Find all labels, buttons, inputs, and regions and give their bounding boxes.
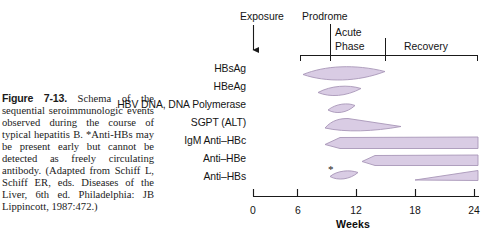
band-hbv-dna <box>328 104 355 113</box>
band-anti-hbs-early <box>330 171 358 179</box>
phase-bracket <box>300 24 478 61</box>
hepatitis-b-timeline-chart: HBsAg HBeAg HBV DNA, DNA Polymerase SGPT… <box>0 0 504 233</box>
band-hbeag <box>318 86 361 95</box>
chart-vector-layer <box>0 0 504 233</box>
band-anti-hbs-late <box>415 171 478 181</box>
figure-7-13: Figure 7-13. Schema of the sequential se… <box>0 0 504 233</box>
band-anti-hbe <box>362 155 478 166</box>
band-igm-anti-hbc <box>325 137 478 149</box>
band-sgpt-alt <box>325 119 401 131</box>
x-axis <box>253 189 479 197</box>
band-hbsag <box>303 67 385 80</box>
